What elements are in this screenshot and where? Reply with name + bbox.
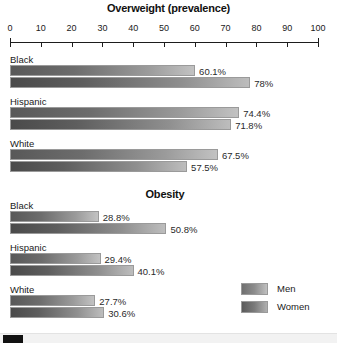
axis-tick: [287, 42, 288, 47]
bar-value-label: 57.5%: [191, 162, 218, 173]
scrollbar-thumb[interactable]: [3, 335, 23, 343]
axis-tick-label: 0: [7, 23, 12, 33]
axis-tick: [195, 42, 196, 47]
axis-tick-label: 70: [221, 23, 231, 33]
bar-women[interactable]: [10, 77, 250, 88]
bar-women[interactable]: [10, 161, 187, 172]
group-label: White: [10, 284, 34, 295]
bar-men[interactable]: [10, 65, 195, 76]
bar-value-label: 30.6%: [108, 308, 135, 319]
axis-tick-label: 20: [67, 23, 77, 33]
legend-item-men: Men: [241, 281, 337, 299]
axis-tick-label: 80: [251, 23, 261, 33]
axis-tick: [318, 38, 319, 47]
group-label: Hispanic: [10, 96, 46, 107]
overweight-section-title: Overweight (prevalence): [0, 2, 337, 14]
axis-tick-label: 100: [310, 23, 325, 33]
bar-value-label: 28.8%: [103, 212, 130, 223]
group-label: Black: [10, 54, 33, 65]
legend-swatch-women-icon: [241, 301, 268, 313]
bar-value-label: 27.7%: [99, 296, 126, 307]
axis-tick: [164, 42, 165, 47]
legend-item-women: Women: [241, 299, 337, 317]
axis-tick: [102, 42, 103, 47]
chart-legend: Men Women: [241, 281, 337, 317]
bar-value-label: 50.8%: [170, 224, 197, 235]
axis-tick-label: 50: [159, 23, 169, 33]
obesity-section-title: Obesity: [0, 188, 330, 200]
bar-value-label: 29.4%: [105, 254, 132, 265]
x-axis: 0102030405060708090100: [0, 20, 337, 46]
axis-tick: [133, 42, 134, 47]
group-label: White: [10, 138, 34, 149]
axis-tick: [41, 42, 42, 47]
axis-tick: [10, 38, 11, 47]
bar-value-label: 74.4%: [243, 108, 270, 119]
legend-swatch-men-icon: [241, 283, 268, 295]
bar-men[interactable]: [10, 107, 239, 118]
axis-tick-label: 60: [190, 23, 200, 33]
group-label: Black: [10, 200, 33, 211]
bar-men[interactable]: [10, 295, 95, 306]
bar-value-label: 71.8%: [235, 120, 262, 131]
bar-value-label: 60.1%: [199, 66, 226, 77]
bar-value-label: 78%: [254, 78, 273, 89]
bar-value-label: 67.5%: [222, 150, 249, 161]
axis-tick: [72, 42, 73, 47]
axis-tick: [256, 42, 257, 47]
bar-chart: Overweight (prevalence) 0102030405060708…: [0, 0, 337, 344]
bar-men[interactable]: [10, 149, 218, 160]
bar-men[interactable]: [10, 253, 101, 264]
axis-tick-label: 90: [282, 23, 292, 33]
axis-tick-label: 40: [128, 23, 138, 33]
bar-women[interactable]: [10, 119, 231, 130]
group-label: Hispanic: [10, 242, 46, 253]
horizontal-scrollbar[interactable]: [0, 333, 337, 343]
axis-tick: [226, 42, 227, 47]
bar-value-label: 40.1%: [138, 266, 165, 277]
bar-women[interactable]: [10, 307, 104, 318]
bar-men[interactable]: [10, 211, 99, 222]
axis-tick-label: 30: [97, 23, 107, 33]
legend-label-women: Women: [277, 301, 310, 312]
bar-women[interactable]: [10, 223, 166, 234]
bar-women[interactable]: [10, 265, 134, 276]
axis-tick-label: 10: [36, 23, 46, 33]
legend-label-men: Men: [277, 283, 295, 294]
